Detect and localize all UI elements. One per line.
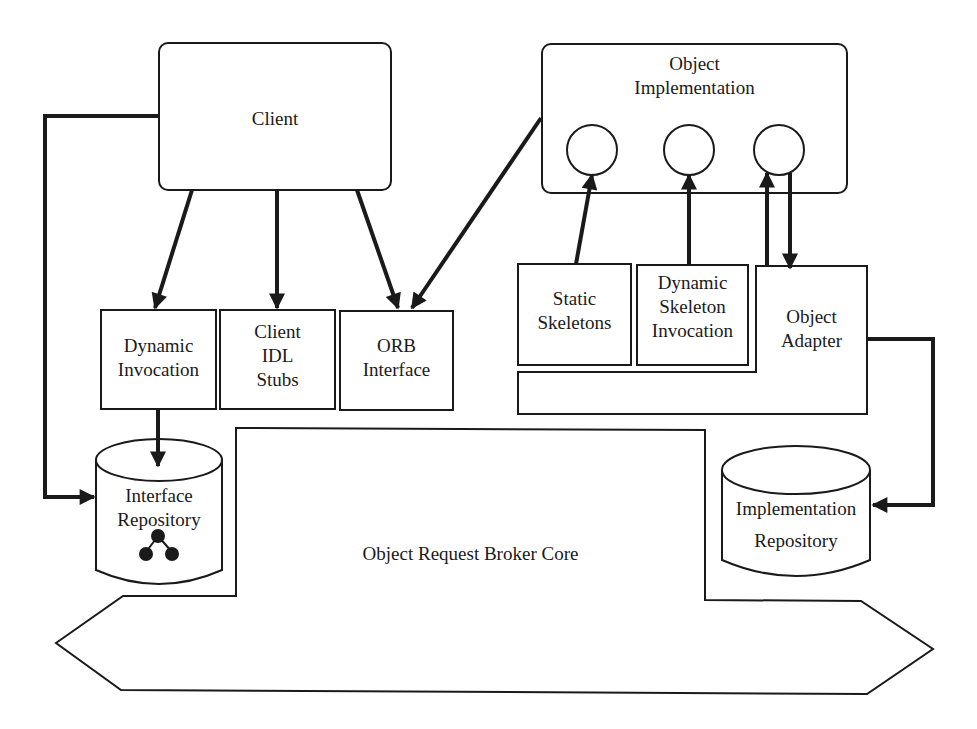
static-skeletons-label: Static Skeletons: [518, 287, 631, 335]
dynamic-invocation-label: Dynamic Invocation: [101, 334, 216, 382]
arrow-client-to-dynamic-invocation: [155, 190, 192, 308]
arrow-client-to-orb-interface: [357, 190, 398, 308]
client-idl-stubs-label: Client IDL Stubs: [220, 320, 335, 392]
dynamic-skeleton-invocation-label: Dynamic Skeleton Invocation: [637, 271, 748, 343]
orb-interface-label: ORB Interface: [340, 334, 453, 382]
client-label: Client: [159, 107, 391, 131]
tree-graph-icon: [140, 530, 178, 560]
arrow-object-adapter-to-implementation-repository: [867, 339, 933, 505]
skeleton-circle-2: [664, 125, 714, 175]
object-implementation-label: Object Implementation: [542, 52, 847, 100]
interface-repository-label: Interface Repository: [96, 484, 222, 532]
skeleton-circle-3: [754, 125, 804, 175]
object-adapter-label: Object Adapter: [756, 305, 867, 353]
arrow-object-impl-to-orb-interface: [412, 118, 541, 308]
skeleton-circle-1: [567, 125, 617, 175]
orb-core-label: Object Request Broker Core: [236, 542, 705, 566]
implementation-repository-label: Implementation Repository: [722, 497, 870, 553]
arrow-static-skeletons-to-object-impl: [576, 175, 592, 264]
